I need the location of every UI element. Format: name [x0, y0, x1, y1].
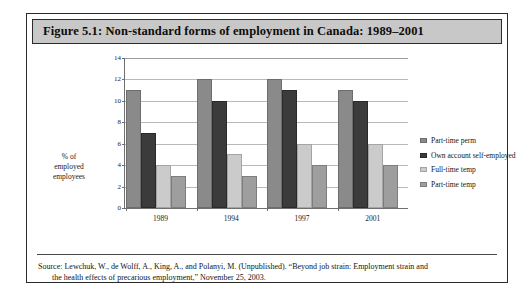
- legend-label: Full-time temp: [431, 165, 476, 174]
- bar: [242, 176, 257, 208]
- source-note-line-1: Source: Lewchuk, W., de Wolff, A., King,…: [38, 262, 428, 271]
- bar-group: [126, 58, 197, 208]
- legend-swatch-icon: [420, 153, 427, 158]
- legend-label: Part-time perm: [431, 136, 476, 145]
- y-tick-mark-10: [122, 101, 125, 102]
- legend-item: Full-time temp: [420, 165, 532, 174]
- bar: [126, 90, 141, 208]
- y-tick-label-14: 14: [114, 54, 121, 62]
- x-axis-tick-label: 1994: [196, 214, 267, 223]
- page-title: Figure 5.1: Non-standard forms of employ…: [33, 24, 424, 39]
- bar: [197, 79, 212, 208]
- source-note-line-2: the health effects of precarious employm…: [38, 272, 497, 283]
- bar: [156, 165, 171, 208]
- plot-area: 14 12 10 8 6 4 2 0: [124, 58, 408, 209]
- legend-label: Part-time temp: [431, 180, 476, 189]
- legend-swatch-icon: [420, 167, 427, 172]
- bar: [227, 154, 242, 208]
- y-tick-mark-6: [122, 144, 125, 145]
- source-divider: [37, 254, 497, 255]
- y-tick-mark-4: [122, 165, 125, 166]
- y-tick-label-6: 6: [118, 140, 122, 148]
- y-tick-label-10: 10: [114, 97, 121, 105]
- y-axis-label-line-3: employees: [38, 172, 100, 182]
- x-axis-labels: 1989199419972001: [125, 214, 408, 223]
- y-tick-mark-2: [122, 187, 125, 188]
- chart-legend: Part-time permOwn account self-employedF…: [420, 136, 532, 194]
- bar: [282, 90, 297, 208]
- legend-swatch-icon: [420, 138, 427, 143]
- bar: [171, 176, 186, 208]
- x-tick-mark: [126, 208, 127, 211]
- bar: [338, 90, 353, 208]
- legend-item: Part-time temp: [420, 180, 532, 189]
- figure-frame: Figure 5.1: Non-standard forms of employ…: [26, 13, 508, 283]
- x-tick-mark: [267, 208, 268, 211]
- bar: [383, 165, 398, 208]
- bar-group: [267, 58, 338, 208]
- source-note: Source: Lewchuk, W., de Wolff, A., King,…: [38, 261, 497, 283]
- x-tick-mark: [197, 208, 198, 211]
- x-axis-tick-label: 1989: [125, 214, 196, 223]
- bar: [353, 101, 368, 208]
- y-tick-mark-12: [122, 79, 125, 80]
- chart-area: % of employed employees: [32, 48, 502, 246]
- legend-item: Own account self-employed: [420, 151, 532, 160]
- y-axis-label-line-2: employed: [38, 162, 100, 172]
- bar-groups: [126, 58, 408, 208]
- legend-item: Part-time perm: [420, 136, 532, 145]
- bar: [297, 144, 312, 208]
- legend-label: Own account self-employed: [431, 151, 516, 160]
- y-tick-label-0: 0: [118, 204, 122, 212]
- y-tick-label-12: 12: [114, 75, 121, 83]
- y-axis-label-line-1: % of: [38, 152, 100, 162]
- bar: [212, 101, 227, 208]
- x-axis-tick-label: 2001: [337, 214, 408, 223]
- y-tick-mark-0: [122, 208, 125, 209]
- y-axis-label: % of employed employees: [38, 152, 100, 182]
- legend-swatch-icon: [420, 182, 427, 187]
- bar-group: [197, 58, 268, 208]
- x-axis-tick-label: 1997: [267, 214, 338, 223]
- y-tick-mark-8: [122, 122, 125, 123]
- x-tick-mark: [338, 208, 339, 211]
- bar: [141, 133, 156, 208]
- bar: [312, 165, 327, 208]
- plot-wrapper: 14 12 10 8 6 4 2 0 1989199419972001: [102, 58, 412, 236]
- y-tick-label-2: 2: [118, 183, 122, 191]
- bar-group: [338, 58, 409, 208]
- figure-title-bar: Figure 5.1: Non-standard forms of employ…: [32, 19, 502, 44]
- bar: [267, 79, 282, 208]
- y-tick-label-4: 4: [118, 161, 122, 169]
- bar: [368, 144, 383, 208]
- y-tick-mark-14: [122, 58, 125, 59]
- y-tick-label-8: 8: [118, 118, 122, 126]
